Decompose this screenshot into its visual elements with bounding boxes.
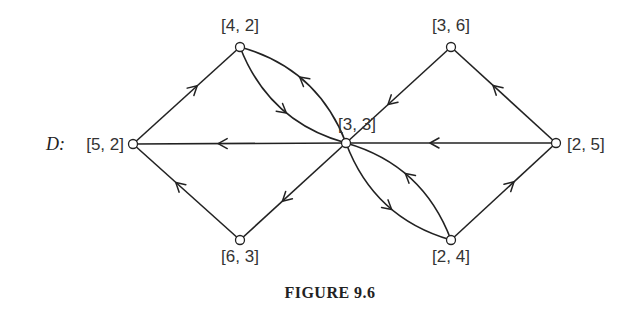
node-label-6-3: [6, 3]	[221, 247, 259, 266]
node-label-3-3: [3, 3]	[338, 115, 376, 134]
node-label-2-4: [2, 4]	[432, 247, 470, 266]
node-label-4-2: [4, 2]	[221, 16, 259, 35]
directed-graph-diagram: D: [4, 2] [3, 6] [3, 3] [5, 2] [2, 5] [6…	[0, 0, 641, 310]
edge-n24-to-n25	[451, 143, 556, 240]
edge-n42-to-n33	[240, 47, 346, 143]
node-n52	[129, 140, 138, 149]
edge-n33-to-n52	[133, 143, 346, 144]
edge-n52-to-n42	[133, 47, 240, 144]
edge-n33-to-n42	[240, 47, 346, 143]
edge-n33-to-n24	[346, 143, 451, 240]
node-label-3-6: [3, 6]	[432, 16, 470, 35]
edge-n63-to-n52	[133, 144, 240, 240]
node-n63	[236, 236, 245, 245]
edge-n33-to-n63	[240, 143, 346, 240]
graph-name-label: D:	[45, 134, 65, 154]
node-label-2-5: [2, 5]	[567, 135, 605, 154]
node-n42	[236, 43, 245, 52]
edge-n24-to-n33	[346, 143, 451, 240]
node-n24	[447, 236, 456, 245]
node-n36	[447, 43, 456, 52]
node-n25	[552, 139, 561, 148]
node-label-5-2: [5, 2]	[86, 135, 124, 154]
figure-caption: FIGURE 9.6	[284, 284, 375, 301]
edge-n25-to-n36	[451, 47, 556, 143]
node-n33	[342, 139, 351, 148]
